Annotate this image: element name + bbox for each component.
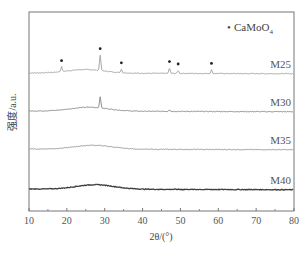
xrd-curves (29, 55, 293, 190)
camoo4-peak-marker-icon (210, 62, 213, 65)
x-axis-tick-labels: 1020304050607080 (24, 215, 299, 226)
series-label-m35: M35 (270, 134, 291, 146)
series-label-m40: M40 (270, 174, 291, 186)
series-label-m30: M30 (270, 96, 291, 108)
camoo4-peak-marker-icon (99, 47, 102, 50)
x-tick-label: 60 (213, 215, 223, 226)
x-tick-label: 20 (62, 215, 72, 226)
curve-m35 (29, 145, 293, 150)
x-tick-label: 50 (175, 215, 185, 226)
xrd-chart: 1020304050607080 2θ/(°) 强度/a.u. M25M30M3… (0, 0, 308, 258)
legend-marker-icon: • (227, 21, 231, 33)
camoo4-peak-marker-icon (168, 60, 171, 63)
camoo4-peak-marker-icon (60, 59, 63, 62)
x-tick-label: 80 (289, 215, 299, 226)
series-label-m25: M25 (270, 58, 291, 70)
x-tick-label: 40 (138, 215, 148, 226)
x-tick-label: 10 (24, 215, 34, 226)
camoo4-peak-marker-icon (120, 61, 123, 64)
y-axis-title: 强度/a.u. (6, 93, 18, 130)
camoo4-peak-marker-icon (177, 63, 180, 66)
x-tick-label: 30 (100, 215, 110, 226)
curve-m25 (29, 55, 293, 74)
curve-m40 (29, 184, 293, 190)
peak-markers (60, 47, 213, 65)
series-labels: M25M30M35M40 (270, 58, 291, 186)
curve-m30 (29, 97, 293, 112)
legend: • CaMoO4 (227, 21, 273, 36)
x-axis-title: 2θ/(°) (149, 231, 172, 243)
x-tick-label: 70 (251, 215, 261, 226)
legend-label: CaMoO4 (234, 21, 273, 36)
